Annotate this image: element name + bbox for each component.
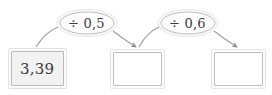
start-value-text: 3,39 — [20, 60, 54, 78]
connector-op1-to-box2 — [113, 31, 136, 47]
connector-op2-to-box3 — [214, 31, 237, 47]
result-box-1[interactable] — [114, 53, 162, 86]
diagram-graphics — [0, 0, 272, 95]
operation-bubble-2-text: ÷ 0,6 — [169, 16, 206, 31]
result-box-2[interactable] — [215, 53, 263, 86]
operation-bubble-1-text: ÷ 0,5 — [68, 16, 105, 31]
connector-box1-to-op1 — [36, 27, 58, 47]
connector-box2-to-op2 — [139, 27, 159, 47]
worksheet-diagram: 3,39 ÷ 0,5 ÷ 0,6 — [0, 0, 272, 95]
